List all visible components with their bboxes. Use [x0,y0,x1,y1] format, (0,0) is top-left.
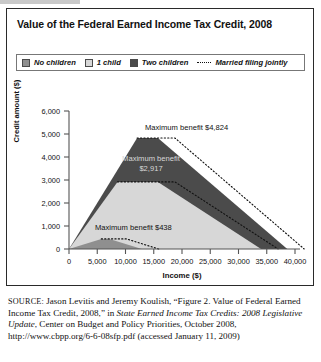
legend-label-one-child: 1 child [97,58,121,67]
y-tick-6000: 6,000 [42,107,61,116]
annotation-max-benefit-no-children: Maximum benefit $438 [95,223,172,232]
y-tick-0: 0 [56,245,60,254]
x-tick-20000: 20,000 [171,257,194,266]
annotation-max-benefit-two-children: Maximum benefit $4,824 [145,123,228,132]
y-axis-tick-labels: 0 1,000 2,000 3,000 4,000 5,000 6,000 [42,107,61,254]
legend-swatch-no-children [22,59,30,67]
page-edge-artifact [0,0,80,4]
figure-title: Value of the Federal Earned Income Tax C… [17,18,307,30]
source-text-2: , Center on Budget and Policy Priorities… [8,319,240,341]
y-axis-ticks [64,111,69,249]
y-tick-2000: 2,000 [42,199,61,208]
x-axis-tick-labels: 0 5,000 10,000 15,000 20,000 25,000 30,0… [67,257,306,266]
x-tick-15000: 15,000 [142,257,165,266]
source-citation: SOURCE: Jason Levitis and Jeremy Koulish… [8,296,308,342]
legend-label-no-children: No children [34,58,76,67]
y-tick-1000: 1,000 [42,222,61,231]
x-axis-title: Income ($) [163,271,202,280]
source-label: SOURCE: [8,297,44,306]
x-axis-ticks [69,249,295,254]
x-tick-0: 0 [67,257,71,266]
x-tick-5000: 5,000 [88,257,107,266]
eitc-area-chart: 0 1,000 2,000 3,000 4,000 5,000 6,000 [7,75,315,285]
chart-legend: No children 1 child Two children Married… [16,54,305,71]
plot-area: Credit amount ($) [7,75,315,285]
y-tick-5000: 5,000 [42,130,61,139]
x-tick-30000: 30,000 [227,257,250,266]
annotation-max-benefit-one-child-line2: $2,917 [139,164,162,173]
x-tick-35000: 35,000 [255,257,278,266]
x-tick-40000: 40,000 [284,257,307,266]
y-tick-3000: 3,000 [42,176,61,185]
legend-label-two-children: Two children [142,58,189,67]
annotation-max-benefit-one-child-line1: Maximum benefit [122,154,181,163]
legend-swatch-two-children [130,59,138,67]
legend-item-no-children: No children [22,58,76,67]
x-tick-10000: 10,000 [114,257,137,266]
legend-item-one-child: 1 child [85,58,121,67]
legend-label-married-filing-jointly: Married filing jointly [215,58,287,67]
legend-item-married-filing-jointly: Married filing jointly [197,58,287,67]
figure-container: Value of the Federal Earned Income Tax C… [6,8,314,286]
legend-dotted-line-icon [197,62,211,63]
legend-swatch-one-child [85,59,93,67]
legend-item-two-children: Two children [130,58,189,67]
y-tick-4000: 4,000 [42,153,61,162]
x-tick-25000: 25,000 [199,257,222,266]
